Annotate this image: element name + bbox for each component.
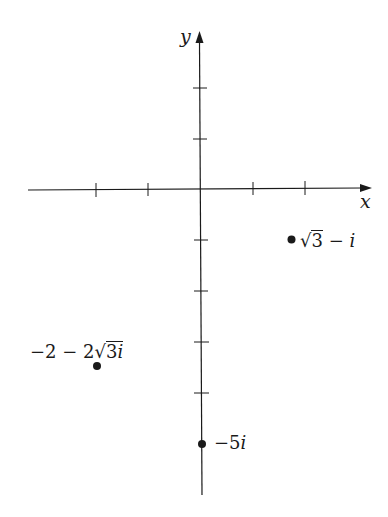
y-axis-arrow-icon xyxy=(196,31,204,43)
point-label-sqrt3-minus-i: √3 − i xyxy=(300,230,355,250)
point-minus5i xyxy=(198,440,206,448)
sqrt-symbol: √3i xyxy=(95,341,124,361)
sqrt-symbol: √3 xyxy=(300,230,323,250)
y-axis-label: y xyxy=(180,27,191,46)
x-axis xyxy=(28,188,362,190)
point-minus2-minus-2sqrt3i xyxy=(93,362,101,370)
point-sqrt3-minus-i xyxy=(288,236,296,244)
point-label-minus5i: −5i xyxy=(214,434,246,452)
x-axis-label: x xyxy=(360,192,371,211)
y-axis xyxy=(200,42,203,495)
complex-plane-plot xyxy=(0,0,388,517)
point-label-minus2-minus-2sqrt3i: −2 − 2√3i xyxy=(30,341,123,361)
